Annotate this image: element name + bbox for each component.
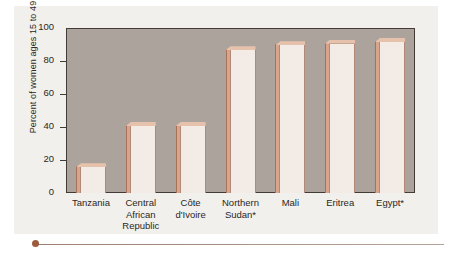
bar-top-face [275, 41, 305, 45]
figure-container: Percent of women ages 15 to 49 020406080… [0, 0, 450, 261]
y-tick-mark [60, 94, 66, 96]
bar-top-face [375, 38, 405, 42]
decorative-rule [36, 244, 444, 245]
y-tick-label: 80 [43, 54, 54, 65]
x-axis-label: Central African Republic [116, 197, 166, 232]
bar-top-face [176, 122, 206, 126]
x-axis-label: Egypt* [365, 197, 415, 209]
bar-front-face [80, 166, 106, 193]
bar [275, 41, 305, 193]
bar-front-face [279, 44, 305, 193]
bar-front-face [379, 41, 405, 193]
bar-top-face [226, 46, 256, 50]
x-axis-label: Tanzania [66, 197, 116, 209]
y-tick-mark [60, 61, 66, 63]
bar [226, 46, 256, 193]
y-tick-label: 20 [43, 153, 54, 164]
bar-top-face [325, 40, 355, 44]
bar [176, 122, 206, 193]
x-axis-label: Côte d'Ivoire [166, 197, 216, 220]
bar-front-face [230, 49, 256, 193]
x-axis-label: Mali [265, 197, 315, 209]
decorative-dot [32, 240, 39, 247]
bar-top-face [126, 122, 156, 126]
y-tick-label: 0 [49, 186, 54, 197]
bar-front-face [130, 125, 156, 193]
bar [375, 38, 405, 193]
bar-front-face [329, 43, 355, 193]
y-tick-mark [60, 127, 66, 129]
y-tick-label: 40 [43, 120, 54, 131]
y-axis-title: Percent of women ages 15 to 49 [28, 0, 38, 152]
bar [126, 122, 156, 193]
bar-front-face [180, 125, 206, 193]
y-tick-label: 60 [43, 87, 54, 98]
y-tick-mark [60, 160, 66, 162]
bar [325, 40, 355, 193]
bar [76, 163, 106, 193]
y-tick-label: 100 [38, 21, 54, 32]
x-axis-label: Eritrea [315, 197, 365, 209]
x-axis-label: Northern Sudan* [216, 197, 266, 220]
bar-top-face [76, 163, 106, 167]
